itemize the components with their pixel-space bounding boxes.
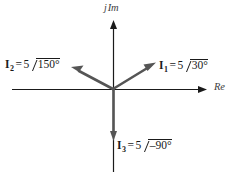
phasor-vector-i3 xyxy=(110,89,117,141)
phasor-i2-angle-operator-icon: 150° xyxy=(31,59,60,71)
phasor-i3-angle: –90° xyxy=(150,139,172,151)
phasor-i3-magnitude: 5 xyxy=(135,139,141,151)
imaginary-axis-label-text: Im xyxy=(107,2,119,13)
real-axis-label: Re xyxy=(213,82,225,93)
phasor-i1-line xyxy=(113,67,149,89)
phasor-i2-magnitude: 5 xyxy=(23,58,29,70)
phasor-i1-magnitude: 5 xyxy=(177,59,183,71)
real-axis-arrowhead-icon xyxy=(198,86,207,93)
phasor-label-i2: I2=5150° xyxy=(5,59,60,73)
phasor-vector-i2 xyxy=(71,66,113,90)
phasor-i2-angle: 150° xyxy=(38,58,60,70)
phasor-vector-i1 xyxy=(113,63,156,90)
phasor-i1-angle: 30° xyxy=(192,59,208,71)
real-axis-label-text: Re xyxy=(213,81,225,92)
imaginary-axis-arrowhead-icon xyxy=(110,20,117,29)
phasor-i3-angle-operator-icon: –90° xyxy=(143,140,172,152)
imaginary-axis-label: jIm xyxy=(104,3,118,14)
phasor-label-i1: I1=530° xyxy=(159,60,208,74)
phasor-i3-arrowhead-icon xyxy=(110,131,117,141)
phasor-diagram: jIm Re I1=530° I2=5150° I3=5–90° xyxy=(0,0,241,177)
phasor-i1-angle-operator-icon: 30° xyxy=(185,60,208,72)
phasor-i2-line xyxy=(79,71,113,89)
phasor-label-i3: I3=5–90° xyxy=(117,140,172,154)
